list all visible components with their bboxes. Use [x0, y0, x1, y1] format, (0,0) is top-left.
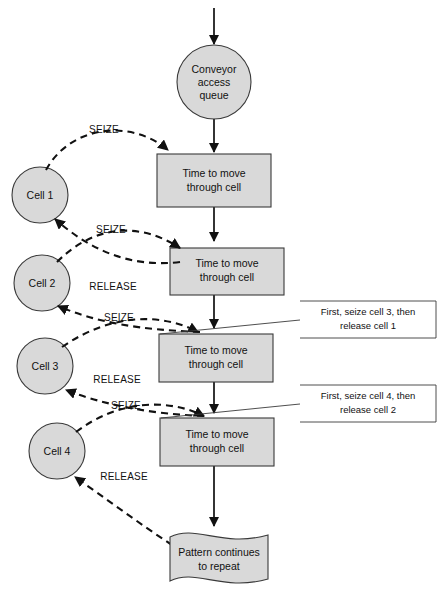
process-box-3-line-1: Time to move — [184, 344, 247, 356]
cell-2-label: Cell 2 — [29, 277, 56, 289]
cell-1-label: Cell 1 — [27, 189, 54, 201]
conveyor-queue-line-2: access — [198, 76, 231, 88]
annotation-2-line-1: First, seize cell 4, then — [321, 390, 416, 401]
edge-label-release-3: RELEASE — [100, 471, 148, 482]
node-time-to-move-1: Time to move through cell — [157, 154, 271, 207]
edge-label-seize-2: SEIZE — [96, 224, 126, 235]
pattern-banner-line-2: to repeat — [198, 560, 240, 572]
cell-3-label: Cell 3 — [32, 360, 59, 372]
process-box-2-line-1: Time to move — [195, 257, 258, 269]
pattern-banner-shape — [170, 533, 268, 583]
node-conveyor-access-queue: Conveyor access queue — [177, 45, 251, 119]
cell-4-label: Cell 4 — [44, 445, 71, 457]
conveyor-queue-line-1: Conveyor — [192, 63, 237, 75]
process-box-1-line-1: Time to move — [182, 167, 245, 179]
pattern-banner-line-1: Pattern continues — [178, 546, 260, 558]
annotation-seize-3-release-1: First, seize cell 3, then release cell 1 — [160, 301, 436, 338]
diagram-canvas: Conveyor access queue Time to move throu… — [0, 0, 441, 600]
process-box-4-line-1: Time to move — [185, 428, 248, 440]
edge-release-cell4 — [75, 477, 172, 545]
node-time-to-move-4: Time to move through cell — [160, 418, 274, 466]
annotation-1-line-1: First, seize cell 3, then — [321, 306, 416, 317]
edge-label-release-1: RELEASE — [89, 281, 137, 292]
annotation-2-leader — [161, 404, 300, 418]
process-box-2-line-2: through cell — [200, 271, 254, 283]
edge-label-release-2: RELEASE — [93, 374, 141, 385]
edge-label-seize-1: SEIZE — [89, 124, 119, 135]
process-box-3-line-2: through cell — [189, 358, 243, 370]
annotation-2-line-2: release cell 2 — [340, 404, 396, 415]
edge-seize-cell1 — [46, 131, 168, 170]
edge-label-group: SEIZE SEIZE RELEASE SEIZE RELEASE SEIZE … — [89, 124, 148, 482]
process-box-1-line-2: through cell — [187, 181, 241, 193]
edge-label-seize-4: SEIZE — [111, 400, 141, 411]
node-time-to-move-3: Time to move through cell — [159, 334, 273, 382]
node-cell-2: Cell 2 — [14, 255, 70, 311]
flowchart-svg: Conveyor access queue Time to move throu… — [0, 0, 441, 600]
edge-label-seize-3: SEIZE — [104, 312, 134, 323]
annotation-1-line-2: release cell 1 — [340, 320, 396, 331]
cell-nodes: Cell 1 Cell 2 Cell 3 Cell 4 — [12, 167, 85, 479]
conveyor-queue-line-3: queue — [199, 89, 228, 101]
node-time-to-move-2: Time to move through cell — [170, 248, 284, 295]
node-cell-1: Cell 1 — [12, 167, 68, 223]
annotation-1-leader — [160, 320, 300, 334]
process-box-4-line-2: through cell — [190, 442, 244, 454]
node-pattern-continues: Pattern continues to repeat — [170, 533, 268, 583]
